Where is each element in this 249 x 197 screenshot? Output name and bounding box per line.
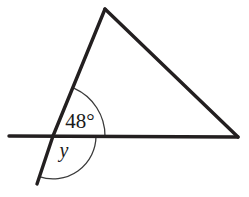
angle-y-label: y: [58, 139, 69, 162]
geometry-canvas: 48° y: [0, 0, 249, 197]
geometry-figure: 48° y: [0, 0, 249, 197]
horizontal-line: [9, 136, 238, 137]
angle-48-label: 48°: [65, 109, 94, 133]
